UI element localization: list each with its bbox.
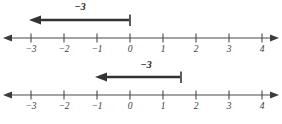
tick-label-3: 3 bbox=[218, 44, 240, 55]
tick-label-0: 0 bbox=[119, 101, 141, 112]
tick-label-2: 2 bbox=[185, 101, 207, 112]
tick-label-3: 3 bbox=[218, 101, 240, 112]
axis-right-arrowhead-icon bbox=[270, 91, 279, 98]
first-number-line: −3 −3 −2 −1 0 1 2 3 4 bbox=[0, 0, 282, 62]
tick-label-1: 1 bbox=[152, 101, 174, 112]
tick-label-4: 4 bbox=[251, 44, 273, 55]
tick-label-1: 1 bbox=[152, 44, 174, 55]
tick-label-0: 0 bbox=[119, 44, 141, 55]
tick-label-neg1: −1 bbox=[86, 101, 108, 112]
jump-label: −3 bbox=[67, 1, 93, 13]
axis-right-arrowhead-icon bbox=[270, 34, 279, 41]
tick-label-2: 2 bbox=[185, 44, 207, 55]
tick-label-neg3: −3 bbox=[20, 101, 42, 112]
tick-label-neg3: −3 bbox=[20, 44, 42, 55]
axis-left-arrowhead-icon bbox=[3, 34, 12, 41]
tick-label-neg2: −2 bbox=[53, 44, 75, 55]
second-number-line-graphic bbox=[0, 62, 282, 124]
tick-label-neg1: −1 bbox=[86, 44, 108, 55]
jump-label: −3 bbox=[133, 59, 159, 71]
jump-arrow-head-icon bbox=[95, 73, 107, 82]
tick-label-4: 4 bbox=[251, 101, 273, 112]
second-number-line: −3 −3 −2 −1 0 1 2 3 4 bbox=[0, 62, 282, 124]
tick-label-neg2: −2 bbox=[53, 101, 75, 112]
jump-arrow-head-icon bbox=[29, 16, 41, 25]
number-line-figure: −3 −3 −2 −1 0 1 2 3 4 bbox=[0, 0, 282, 124]
axis-left-arrowhead-icon bbox=[3, 91, 12, 98]
